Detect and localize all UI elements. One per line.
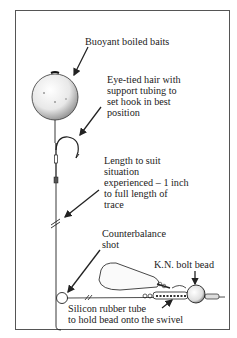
label-bait: Buoyant boiled baits	[85, 36, 169, 47]
label-bead: K.N. bolt bead	[154, 259, 214, 270]
label-length: Length to suit situation experienced – 1…	[104, 155, 189, 210]
hook	[54, 137, 79, 183]
label-length-line: to full length of	[104, 188, 189, 199]
label-bait-line: Buoyant boiled baits	[85, 36, 169, 47]
arrow-length	[65, 190, 99, 217]
label-hair-line: support tubing to	[107, 85, 181, 96]
bolt-bead	[187, 285, 219, 303]
hooklength-line	[56, 183, 61, 330]
label-hair-line: Eye-tied hair with	[107, 74, 181, 85]
label-length-line: trace	[104, 199, 189, 210]
arrow-bait	[74, 47, 88, 75]
label-shot-line: shot	[102, 239, 166, 250]
break-mark-icon	[51, 219, 60, 228]
boilie-bait	[32, 72, 78, 120]
label-tube: Silicon rubber tube to hold bead onto th…	[68, 303, 183, 325]
label-shot: Counterbalance shot	[102, 228, 166, 250]
label-length-line: experienced – 1 inch	[104, 177, 189, 188]
label-hair-line: set hook in best	[107, 96, 181, 107]
label-bead-line: K.N. bolt bead	[154, 259, 214, 270]
label-hair-line: position	[107, 107, 181, 118]
label-hair: Eye-tied hair with support tubing to set…	[107, 74, 181, 118]
label-tube-line: Silicon rubber tube	[68, 303, 183, 314]
label-length-line: situation	[104, 166, 189, 177]
label-shot-line: Counterbalance	[102, 228, 166, 239]
label-tube-line: to hold bead onto the swivel	[68, 314, 183, 325]
counterbalance-shot	[57, 293, 68, 304]
label-length-line: Length to suit	[104, 155, 189, 166]
arrow-shot	[68, 250, 100, 292]
arrow-hair	[80, 107, 101, 135]
